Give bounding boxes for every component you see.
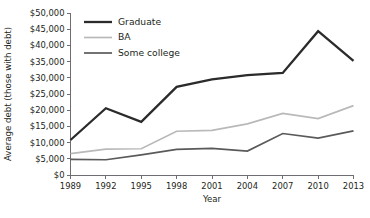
y-tick-label: $25,000 (30, 89, 65, 99)
y-tick-label: $0 (54, 170, 65, 180)
y-tick-label: $15,000 (30, 121, 65, 131)
series-group (71, 31, 354, 160)
x-tick-label: 2010 (307, 181, 328, 191)
x-tick-label: 2001 (201, 181, 222, 191)
y-tick-label: $10,000 (30, 138, 65, 148)
x-tick-label: 2004 (237, 181, 258, 191)
x-tick-label: 1998 (166, 181, 187, 191)
axes-group: $0$5,000$10,000$15,000$20,000$25,000$30,… (3, 8, 364, 204)
chart-canvas: $0$5,000$10,000$15,000$20,000$25,000$30,… (0, 0, 370, 218)
y-tick-label: $40,000 (30, 40, 65, 50)
y-tick-label: $5,000 (35, 154, 64, 164)
x-tick-label: 1989 (60, 181, 81, 191)
x-axis-title: Year (202, 194, 222, 204)
y-tick-label: $45,000 (30, 24, 65, 34)
y-tick-label: $20,000 (30, 105, 65, 115)
legend-label-ba: BA (118, 31, 131, 42)
legend-label-some-college: Some college (118, 47, 180, 58)
y-tick-label: $30,000 (30, 73, 65, 83)
line-chart: $0$5,000$10,000$15,000$20,000$25,000$30,… (0, 0, 370, 218)
series-line-graduate[interactable] (71, 31, 354, 140)
y-tick-label: $35,000 (30, 57, 65, 67)
x-tick-label: 2013 (343, 181, 364, 191)
y-axis-title: Average debt (those with debt) (3, 27, 13, 161)
x-tick-label: 2007 (272, 181, 293, 191)
series-line-ba[interactable] (71, 106, 354, 154)
series-line-some-college[interactable] (71, 131, 354, 160)
legend-label-graduate: Graduate (118, 16, 161, 27)
y-tick-label: $50,000 (30, 8, 65, 18)
x-tick-label: 1992 (95, 181, 116, 191)
legend: GraduateBASome college (84, 16, 180, 58)
x-tick-label: 1995 (131, 181, 152, 191)
